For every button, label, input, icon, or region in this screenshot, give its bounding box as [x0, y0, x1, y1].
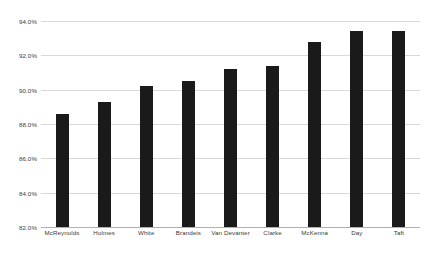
x-axis: McReynoldsHolmesWhiteBrandeisVan Devante… [41, 229, 420, 245]
x-tick-label-day: Day [351, 229, 362, 236]
bar-mckenna [308, 42, 321, 227]
bar-brandeis [182, 81, 195, 227]
x-tick-label-brandeis: Brandeis [176, 229, 201, 236]
bar-white [140, 86, 153, 227]
bar-taft [392, 31, 405, 227]
bar-chart: 82.0%84.0%86.0%88.0%90.0%92.0%94.0% McRe… [0, 0, 437, 253]
x-tick-label-holmes: Holmes [93, 229, 115, 236]
x-tick-label-mcreynolds: McReynolds [45, 229, 80, 236]
bar-mcreynolds [56, 114, 69, 227]
y-tick-label: 84.0% [19, 189, 37, 196]
y-tick-label: 82.0% [19, 224, 37, 231]
x-tick-label-taft: Taft [394, 229, 404, 236]
x-tick-label-mckenna: McKenna [301, 229, 328, 236]
bars-layer [41, 21, 420, 227]
y-axis: 82.0%84.0%86.0%88.0%90.0%92.0%94.0% [0, 21, 39, 227]
x-tick-label-white: White [138, 229, 154, 236]
y-tick-label: 90.0% [19, 86, 37, 93]
bar-holmes [98, 102, 111, 227]
bar-clarke [266, 66, 279, 227]
y-tick-label: 88.0% [19, 121, 37, 128]
bar-van-devanter [224, 69, 237, 227]
gridline-82.0 [41, 227, 420, 228]
y-tick-label: 92.0% [19, 52, 37, 59]
y-tick-label: 86.0% [19, 155, 37, 162]
x-tick-label-clarke: Clarke [263, 229, 281, 236]
y-tick-label: 94.0% [19, 18, 37, 25]
bar-day [350, 31, 363, 227]
x-tick-label-van-devanter: Van Devanter [211, 229, 250, 236]
